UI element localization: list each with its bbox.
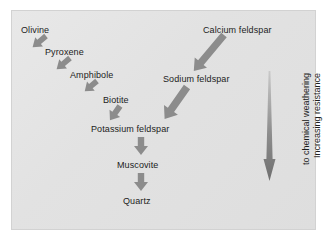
diagram-canvas: Olivine Pyroxene Amphibole Biotite Calci… [0, 0, 327, 241]
node-olivine[interactable]: Olivine [21, 25, 49, 35]
node-calcium-feldspar[interactable]: Calcium feldspar [203, 25, 272, 35]
arrow-sodium-potassium [158, 82, 194, 124]
node-quartz[interactable]: Quartz [123, 196, 151, 206]
node-pyroxene[interactable]: Pyroxene [45, 47, 84, 57]
axis-caption-line-2: to chemical weathering [301, 73, 311, 165]
weathering-axis-caption: Increasing resistance to chemical weathe… [290, 73, 316, 209]
diagram-arrows [12, 11, 317, 231]
arrow-biotite-potassium [105, 102, 126, 124]
axis-caption-line-1: Increasing resistance [312, 73, 322, 158]
arrow-potassium-muscovite [134, 137, 148, 155]
arrow-muscovite-quartz [134, 173, 148, 191]
node-muscovite[interactable]: Muscovite [117, 160, 158, 170]
node-sodium-feldspar[interactable]: Sodium feldspar [163, 74, 230, 84]
node-potassium-feldspar[interactable]: Potassium feldspar [91, 124, 169, 134]
weathering-axis-arrow [264, 71, 276, 181]
node-amphibole[interactable]: Amphibole [70, 70, 113, 80]
diagram-panel: Olivine Pyroxene Amphibole Biotite Calci… [11, 10, 316, 230]
arrow-calcium-sodium [188, 30, 230, 76]
node-biotite[interactable]: Biotite [103, 95, 129, 105]
